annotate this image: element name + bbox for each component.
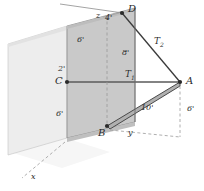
force-label-t1-sub: 1: [131, 74, 135, 81]
axis-label-x: x: [31, 173, 36, 181]
top-plane-guide-line: [60, 4, 123, 13]
point-label-d: D: [128, 4, 136, 14]
point-label-a: A: [186, 76, 193, 86]
dim-8ft-middle: 8': [122, 49, 129, 57]
force-diagram-figure: D A C B 4' 6' 2' 6' 8' 10' 6' T1 T2 x y …: [0, 0, 204, 191]
dim-10ft-cable: 10': [141, 104, 153, 112]
node-dot-d: [120, 11, 124, 15]
diagram-canvas: [0, 0, 204, 191]
dim-6ft-upper-left: 6': [77, 36, 84, 44]
dim-4ft-top: 4': [105, 14, 112, 22]
force-label-t1: T1: [125, 70, 135, 81]
y-axis-dashed: [110, 130, 180, 137]
dim-6ft-lower-left: 6': [56, 110, 63, 118]
force-label-t2: T2: [154, 37, 164, 48]
axis-label-z: z: [96, 12, 100, 20]
dim-6ft-right: 6': [187, 105, 194, 113]
node-dot-a: [178, 80, 182, 84]
point-label-c: C: [55, 76, 63, 86]
force-label-t2-sub: 2: [160, 41, 164, 48]
side-wall-panel: [8, 26, 67, 155]
point-label-b: B: [98, 128, 105, 138]
axis-label-y: y: [128, 129, 133, 137]
dim-2ft-left: 2': [58, 65, 65, 73]
node-dot-b: [105, 124, 109, 128]
node-dot-c: [65, 80, 69, 84]
